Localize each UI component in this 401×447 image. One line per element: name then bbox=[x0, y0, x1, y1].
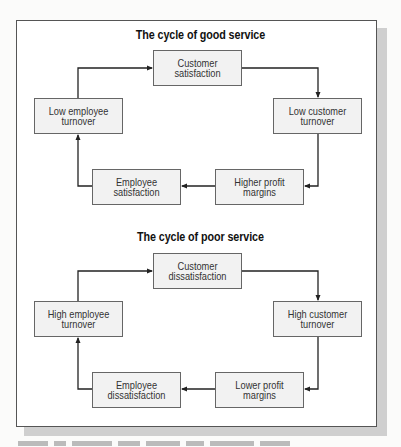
cropped-caption bbox=[18, 440, 318, 446]
arrow-left-to-top bbox=[78, 271, 152, 301]
arrow-bottom-left-to-left bbox=[78, 338, 92, 389]
connector-arrows bbox=[0, 0, 401, 447]
arrow-left-to-top bbox=[78, 68, 152, 98]
arrow-right-to-bottom-right bbox=[305, 337, 318, 389]
arrow-right-to-bottom-right bbox=[305, 134, 318, 186]
arrow-bottom-left-to-left bbox=[78, 135, 92, 186]
arrow-top-to-right bbox=[242, 271, 318, 300]
arrow-top-to-right bbox=[242, 68, 318, 97]
